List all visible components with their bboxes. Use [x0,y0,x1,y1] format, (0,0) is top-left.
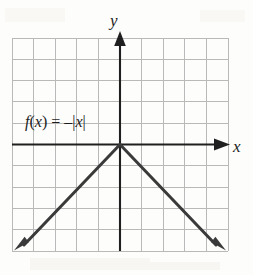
y-axis-label: y [110,12,118,29]
function-equation-label: f(x) = –|x| [25,114,86,130]
equals-sign: = [47,113,64,130]
abs-bar-close: | [83,113,86,130]
figure-background [0,0,253,275]
abs-body: x [75,113,82,130]
x-axis-label: x [233,138,241,155]
function-argument: x [35,113,42,130]
coordinate-plane-svg [0,0,253,275]
